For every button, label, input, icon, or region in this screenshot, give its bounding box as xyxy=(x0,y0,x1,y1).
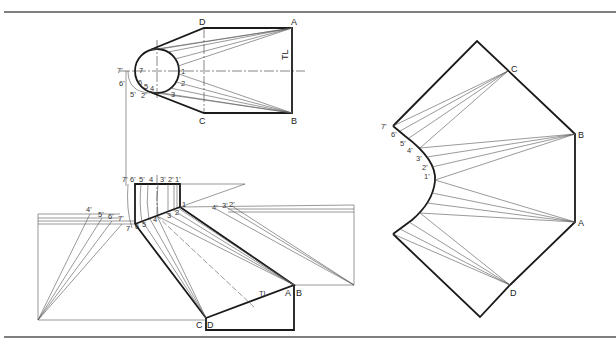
front-base-box xyxy=(206,285,294,330)
dev-5p: 5' xyxy=(400,139,406,148)
dev-radials-b xyxy=(420,134,575,180)
front-label-a: A xyxy=(285,288,291,298)
ftop-6p: 6' xyxy=(130,175,136,184)
label-2: 2 xyxy=(181,79,185,88)
top-view: D A B C TL 7 1 2 3 6 5 4 7' 6' 5' 2' xyxy=(117,17,305,186)
front-view: 7' 6' 5' 4 3' 2' 1' 7 6 5 4 3 2 1 4' 5' … xyxy=(38,175,354,330)
dev-label-c: C xyxy=(511,64,518,74)
ltl-5p: 5' xyxy=(98,210,104,219)
front-transition-outline xyxy=(135,207,294,318)
label-3: 3 xyxy=(171,90,175,99)
label-b: B xyxy=(291,116,297,126)
front-label-c: C xyxy=(196,320,203,330)
ltl-6p: 6' xyxy=(108,212,114,221)
fedge-7: 7 xyxy=(126,224,130,233)
rtl-2p: 2' xyxy=(229,200,235,209)
fedge-5: 5 xyxy=(142,220,146,229)
dev-radials-a xyxy=(420,180,575,222)
dev-2p: 2' xyxy=(422,163,428,172)
ltl-4p: 4' xyxy=(86,205,92,214)
dev-7p: 7' xyxy=(381,122,387,131)
ftop-7p: 7' xyxy=(122,175,128,184)
label-6p: 6' xyxy=(119,79,125,88)
fedge-2: 2 xyxy=(175,208,179,217)
top-radials-a xyxy=(150,28,292,66)
label-4: 4 xyxy=(150,84,154,93)
dev-label-a: A xyxy=(578,218,584,228)
drawing-canvas: D A B C TL 7 1 2 3 6 5 4 7' 6' 5' 2' xyxy=(0,0,616,345)
label-4p: 2' xyxy=(141,91,147,100)
top-view-outline xyxy=(150,28,292,113)
label-tl-top: TL xyxy=(280,49,290,60)
right-tl-construction xyxy=(180,205,354,285)
ftop-1p: 1' xyxy=(175,175,181,184)
label-a: A xyxy=(291,17,297,27)
label-c: C xyxy=(199,116,206,126)
ltl-7p: 7' xyxy=(118,214,124,223)
dev-label-b: B xyxy=(578,130,584,140)
front-radials xyxy=(143,208,294,318)
dev-radials-d xyxy=(393,213,510,285)
dev-1p: 1' xyxy=(424,172,430,181)
fedge-4: 4 xyxy=(153,215,157,224)
development-pattern: C B A D 7' 6' 5' 4' 3' 2' 1' xyxy=(381,41,584,317)
rtl-4p: 4' xyxy=(212,203,218,212)
fedge-6: 6 xyxy=(135,222,139,231)
label-7: 7 xyxy=(139,66,143,75)
dev-4p: 4' xyxy=(407,146,413,155)
front-label-d: D xyxy=(207,320,214,330)
rtl-3p: 3' xyxy=(222,201,228,210)
label-1: 1 xyxy=(181,67,185,76)
fedge-1: 1 xyxy=(182,200,186,209)
ftop-5p: 5' xyxy=(139,175,145,184)
label-6: 6 xyxy=(138,78,142,87)
label-5: 5 xyxy=(144,82,148,91)
front-label-b: B xyxy=(296,288,302,298)
ftop-4: 4 xyxy=(149,175,153,184)
label-d: D xyxy=(199,17,206,27)
front-label-tl: TL xyxy=(259,289,268,298)
dev-label-d: D xyxy=(510,288,517,298)
label-5p: 5' xyxy=(130,90,136,99)
left-tl-construction xyxy=(38,214,206,320)
fedge-3: 3 xyxy=(167,211,171,220)
dev-6p: 6' xyxy=(391,130,397,139)
ftop-2p: 2' xyxy=(168,175,174,184)
dev-3p: 3' xyxy=(416,154,422,163)
label-7p: 7' xyxy=(117,66,123,75)
ftop-3p: 3' xyxy=(160,175,166,184)
